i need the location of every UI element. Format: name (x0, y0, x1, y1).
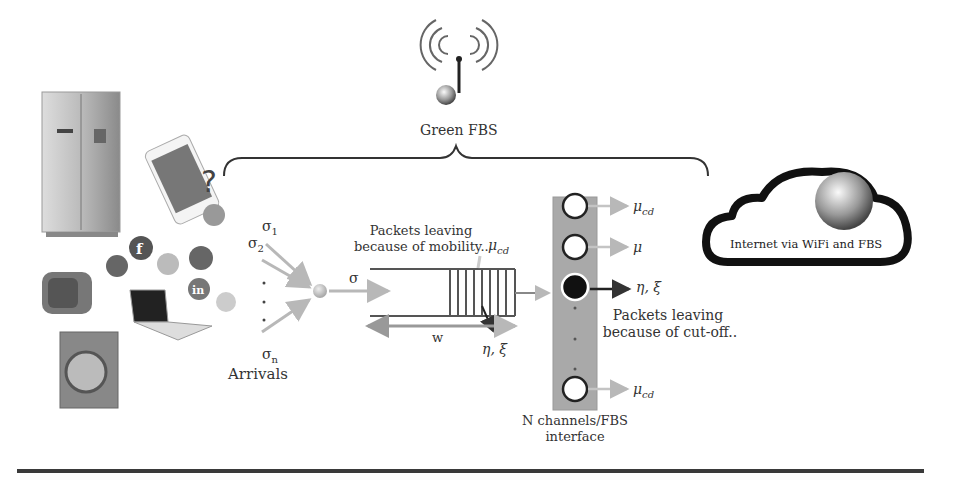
washing-machine-icon (60, 332, 118, 408)
leaf-globe-icon (203, 204, 225, 226)
bottom-rule (17, 469, 924, 473)
ellipsis-dots (263, 282, 266, 322)
brace (224, 146, 708, 176)
question-mark: ? (201, 164, 217, 199)
sigma-2-label: σ2 (248, 235, 264, 254)
merge-node (313, 284, 327, 298)
google-plus-icon (106, 255, 128, 277)
cloud-label: Internet via WiFi and FBS (730, 237, 882, 251)
mobility-label-line2: because of mobility.. (354, 239, 489, 254)
sigma-n-label: σn (262, 346, 278, 365)
internet-globe-icon (815, 172, 873, 230)
channel-n-rate: μcd (633, 381, 654, 400)
channel-2-rate: μ (633, 239, 642, 258)
channel-idle-1 (563, 194, 587, 218)
cutoff-label-line1: Packets leaving (608, 307, 728, 323)
refrigerator-icon (42, 92, 120, 237)
channel-1-rate: μcd (633, 198, 654, 217)
toaster-icon (42, 272, 92, 314)
channels-label-line2: interface (510, 429, 640, 444)
pinterest-icon (189, 246, 213, 270)
sigma-merged-label: σ (349, 270, 359, 286)
channel-busy (562, 274, 588, 300)
channels-label-line1: N channels/FBS (510, 413, 640, 428)
rss-icon (216, 292, 236, 312)
channel-idle-n (563, 377, 587, 401)
cutoff-label-line2: because of cut-off.. (600, 324, 740, 340)
mobility-exit-arrow (478, 256, 480, 268)
fbs-label: Green FBS (420, 122, 498, 138)
channel-idle-2 (563, 235, 587, 259)
svg-text:in: in (192, 284, 204, 297)
channel-busy-rate: η, ξ (636, 279, 661, 295)
queue-eta-xi-label: η, ξ (482, 341, 507, 357)
arrivals-label: Arrivals (228, 365, 288, 383)
wifi-tower-icon (421, 20, 498, 93)
packet-queue (370, 269, 515, 316)
globe-icon (436, 85, 456, 105)
mobility-label-line1: Packets leaving (356, 223, 486, 238)
w-label: w (432, 330, 443, 345)
mobility-mu-label: μcd (488, 237, 509, 256)
sigma-1-label: σ1 (262, 218, 278, 237)
twitter-icon (157, 253, 179, 275)
